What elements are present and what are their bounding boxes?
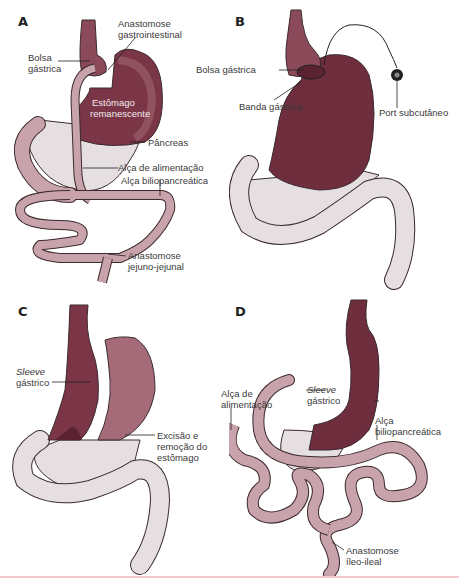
label-sleeve-gastrico-2: gástrico: [16, 377, 49, 388]
label-alca-biliopancreatica-1: Alça: [375, 415, 393, 426]
label-bolsa-gastrica: Bolsa gástrica: [196, 64, 256, 75]
label-anastomose-ileo-2: íleo-ileal: [346, 556, 381, 567]
label-excisao-3: estômago: [157, 452, 199, 463]
label-pancreas: Pâncreas: [148, 137, 188, 148]
panel-letter: C: [18, 304, 28, 319]
label-estomago-remanescente-1: Estômago: [92, 97, 135, 108]
label-port-subcutaneo: Port subcutâneo: [379, 107, 448, 118]
label-alca-biliopancreatica: Alça biliopancreática: [121, 175, 208, 186]
label-anastomose-ileo-1: Anastomose: [346, 545, 399, 556]
panel-letter: D: [235, 304, 246, 319]
label-bolsa-gastrica-2: gástrica: [28, 63, 61, 74]
gastric-bypass-illustration: [0, 0, 229, 290]
label-anastomose-jejuno-2: jejuno-jejunal: [128, 261, 184, 272]
bottom-divider: [0, 576, 459, 578]
panel-d-sleeve-with-bypass: D Alça de alimentação Sleeve gástrico Al…: [229, 290, 459, 576]
label-banda-gastrica: Banda gástrica: [239, 101, 302, 112]
label-excisao-1: Excisão e: [157, 430, 198, 441]
panel-b-gastric-band: B Bolsa gástrica Banda gástrica Port sub…: [229, 0, 459, 290]
label-bolsa-gastrica-1: Bolsa: [28, 52, 52, 63]
label-excisao-2: remoção do: [157, 441, 207, 452]
label-anastomose-gastrointestinal-1: Anastomose: [118, 18, 171, 29]
label-anastomose-gastrointestinal-2: gastrointestinal: [118, 29, 182, 40]
label-sleeve-gastrico-1: Sleeve: [16, 366, 45, 377]
panel-letter: A: [18, 14, 28, 29]
label-sleeve-gastrico-2: gástrico: [307, 395, 340, 406]
label-estomago-remanescente-2: remanescente: [90, 108, 150, 119]
panel-c-sleeve-gastrectomy: C Sleeve gástrico Excisão e remoção do e…: [0, 290, 229, 576]
label-alca-alimentacao: Alça de alimentação: [118, 162, 204, 173]
gastric-band-illustration: [229, 0, 459, 290]
panel-a-gastric-bypass: A Anastomose gastrointestinal Bolsa gást…: [0, 0, 229, 290]
label-alca-alimentacao-1: Alça de: [221, 388, 253, 399]
label-anastomose-jejuno-1: Anastomose: [128, 250, 181, 261]
label-alca-biliopancreatica-2: biliopancreática: [375, 426, 441, 437]
panel-letter: B: [235, 14, 245, 29]
label-sleeve-gastrico-1: Sleeve: [307, 384, 336, 395]
label-alca-alimentacao-2: alimentação: [221, 399, 272, 410]
